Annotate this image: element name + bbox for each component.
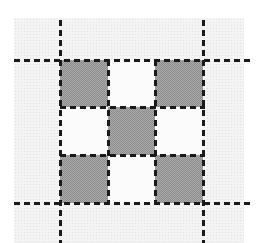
grid-cell-r2c0	[60, 155, 108, 203]
diagram-canvas	[0, 0, 257, 243]
grid-line-top	[14, 59, 250, 62]
grid-line-right	[202, 20, 205, 243]
grid-cell-r1c0	[60, 107, 108, 155]
grid-cell-r0c0	[60, 60, 108, 107]
grid-cell-r0c1	[108, 60, 155, 107]
grid-line-h1	[60, 106, 205, 109]
grid-cell-r1c2	[155, 107, 203, 155]
grid-cell-r2c2	[155, 155, 203, 203]
grid-cell-r2c1	[108, 155, 155, 203]
grid-line-h2	[60, 154, 205, 157]
grid-line-left	[59, 20, 62, 243]
grid-cell-r0c2	[155, 60, 203, 107]
grid-line-v1	[107, 60, 110, 205]
grid-line-v2	[154, 60, 157, 205]
grid-cell-r1c1	[108, 107, 155, 155]
grid-line-bottom	[14, 202, 250, 205]
